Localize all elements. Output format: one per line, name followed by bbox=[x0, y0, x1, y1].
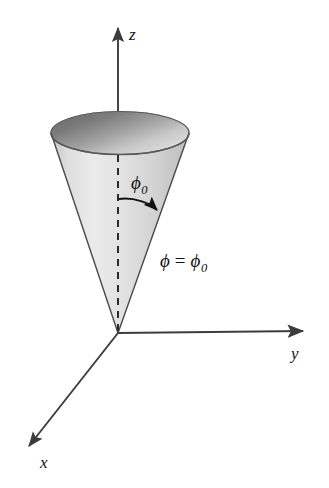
phi-equation-rhs: ϕ bbox=[191, 250, 201, 271]
y-axis-label: y bbox=[289, 344, 299, 363]
z-axis-label: z bbox=[128, 25, 136, 44]
axis-lines-group bbox=[29, 28, 303, 446]
x-axis-line bbox=[29, 333, 118, 446]
svg-text:ϕ=ϕ0: ϕ=ϕ0 bbox=[160, 250, 208, 275]
x-axis-label: x bbox=[39, 453, 48, 472]
diagram-canvas: z y x ϕ0 ϕ=ϕ0 bbox=[0, 0, 329, 488]
phi-equation-lhs: ϕ bbox=[160, 250, 170, 271]
phi-symbol: ϕ bbox=[131, 172, 141, 193]
cone-spherical-coordinates-figure: z y x ϕ0 ϕ=ϕ0 bbox=[0, 0, 329, 488]
cone-lateral-surface bbox=[51, 133, 189, 333]
phi-subscript: 0 bbox=[141, 183, 148, 197]
phi-equation-equals: = bbox=[175, 250, 186, 271]
cone-group bbox=[51, 112, 189, 334]
y-axis-line bbox=[118, 331, 303, 333]
phi-equation-subscript: 0 bbox=[201, 261, 208, 275]
phi-equals-phi-naught-label: ϕ=ϕ0 bbox=[160, 250, 208, 275]
